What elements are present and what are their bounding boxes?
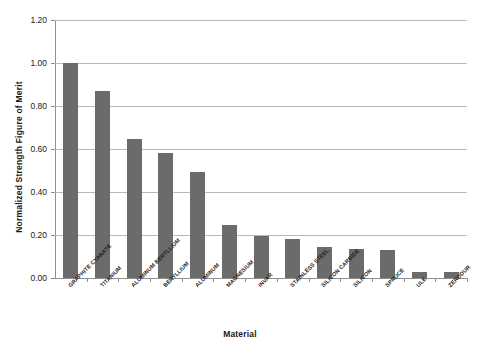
gridline <box>55 149 467 150</box>
y-tick-label: 0.60 <box>3 144 47 154</box>
y-tick-label: 0.00 <box>3 273 47 283</box>
y-tick-label: 0.40 <box>3 187 47 197</box>
y-tick-label: 0.80 <box>3 101 47 111</box>
y-tick-label: 0.20 <box>3 230 47 240</box>
y-tick-mark <box>51 192 55 193</box>
gridline <box>55 20 467 21</box>
bar <box>190 172 205 278</box>
y-tick-mark <box>51 235 55 236</box>
y-tick-label: 1.20 <box>3 15 47 25</box>
bar <box>285 239 300 278</box>
bar <box>254 236 269 278</box>
bar <box>127 139 142 278</box>
y-tick-mark <box>51 20 55 21</box>
plot-area: 0.000.200.400.600.801.001.20 <box>55 20 467 278</box>
y-tick-mark <box>51 106 55 107</box>
x-tick-mark <box>467 278 468 282</box>
y-tick-mark <box>51 63 55 64</box>
gridline <box>55 192 467 193</box>
bar <box>222 225 237 278</box>
y-tick-mark <box>51 278 55 279</box>
gridline <box>55 63 467 64</box>
bar-chart: Normalized Strength Figure of Merit 0.00… <box>0 0 480 352</box>
y-tick-label: 1.00 <box>3 58 47 68</box>
x-axis-title: Material <box>0 329 480 339</box>
x-axis-category-labels: GRAPHITE CYANATETITANIUMALUMINUM BERYLLI… <box>55 282 467 350</box>
gridline <box>55 106 467 107</box>
bar <box>63 63 78 278</box>
y-tick-mark <box>51 149 55 150</box>
